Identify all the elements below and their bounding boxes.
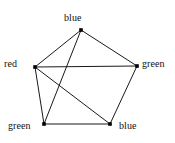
graph-edge-top-bottomleft <box>44 30 81 124</box>
graph-edge-left-bottomright <box>35 67 110 124</box>
graph-edge-top-right <box>81 30 137 66</box>
edge-group <box>35 30 137 124</box>
graph-edge-left-bottomleft <box>35 67 44 124</box>
graph-vertex-left <box>33 65 37 69</box>
vertex-label-right: green <box>142 58 165 69</box>
graph-edge-right-bottomright <box>110 66 137 124</box>
vertex-label-bottomright: blue <box>119 120 137 131</box>
graph-vertex-bottomright <box>108 122 112 126</box>
graph-vertex-top <box>79 28 83 32</box>
graph-edge-left-right <box>35 66 137 67</box>
graph-vertex-right <box>135 64 139 68</box>
vertex-label-top: blue <box>64 12 82 23</box>
vertex-label-left: red <box>4 58 17 69</box>
graph-diagram: blue red green green blue <box>0 0 175 143</box>
vertex-label-bottomleft: green <box>8 120 31 131</box>
graph-vertex-bottomleft <box>42 122 46 126</box>
